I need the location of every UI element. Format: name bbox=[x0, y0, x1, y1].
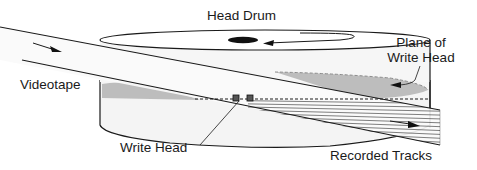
drum-spindle-icon bbox=[228, 37, 258, 43]
helical-scan-diagram: Head Drum Plane of Write Head Videotape … bbox=[0, 0, 477, 170]
label-recorded-tracks: Recorded Tracks bbox=[330, 148, 432, 163]
write-head-block-left bbox=[233, 95, 239, 101]
label-videotape: Videotape bbox=[20, 77, 81, 92]
label-plane-line2: Write Head bbox=[376, 50, 466, 65]
label-plane-line1: Plane of bbox=[376, 35, 466, 50]
label-head-drum: Head Drum bbox=[207, 8, 276, 23]
label-write-head: Write Head bbox=[120, 140, 187, 155]
label-plane-of-write-head: Plane of Write Head bbox=[376, 35, 466, 65]
write-head-block-right bbox=[247, 95, 253, 101]
